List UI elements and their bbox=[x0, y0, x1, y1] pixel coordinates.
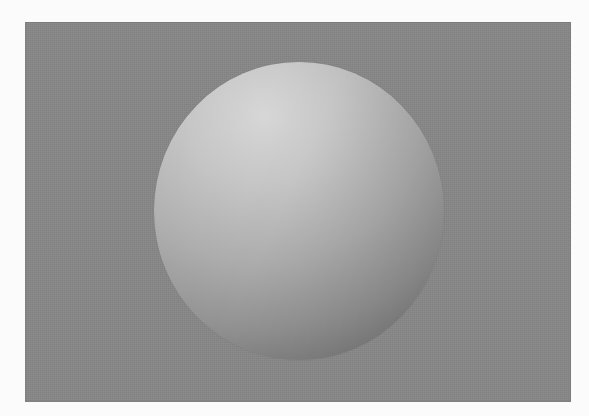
image-canvas bbox=[0, 0, 589, 416]
shaded-sphere bbox=[154, 62, 444, 360]
